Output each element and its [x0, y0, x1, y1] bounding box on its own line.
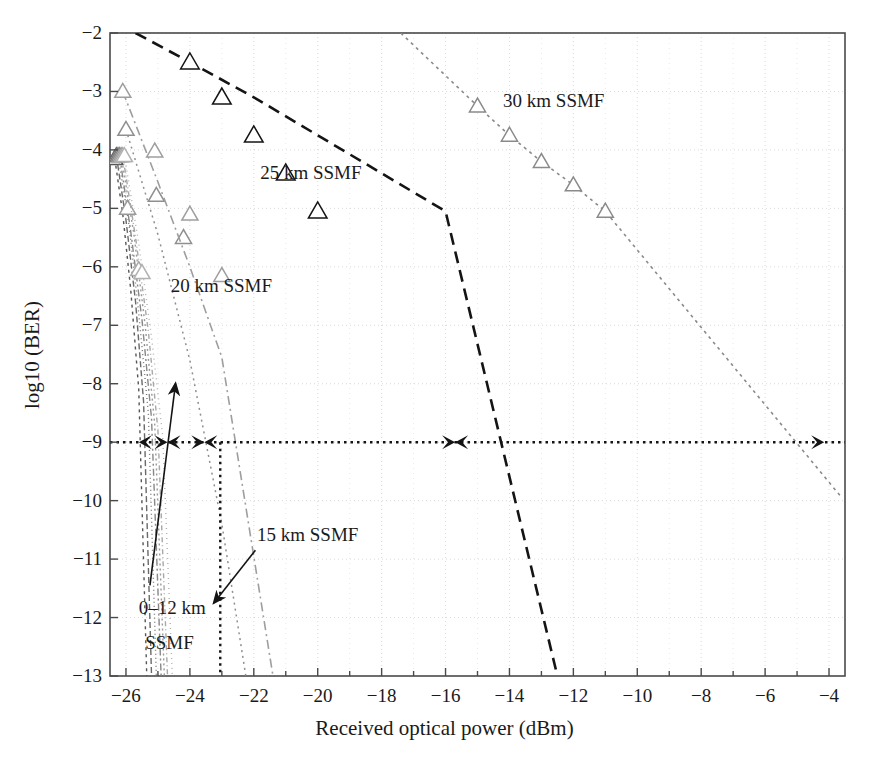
label-0-12km-line2: SSMF [145, 632, 194, 654]
ytick-label--2: −2 [44, 22, 102, 44]
series-line-30-km-ssmf [401, 33, 842, 498]
data-marker-triangle [308, 202, 327, 218]
data-marker-triangle [213, 88, 232, 104]
y-axis-title: log10 (BER) [20, 301, 45, 409]
data-marker-triangle [118, 121, 134, 135]
series-line-25-km-ssmf [136, 33, 558, 676]
ytick-label--6: −6 [44, 256, 102, 278]
ber-vs-received-optical-power-chart: −26−24−22−20−18−16−14−12−10−8−6−4−2−3−4−… [0, 0, 889, 773]
data-marker-triangle [245, 126, 264, 142]
xtick-label--18: −18 [367, 685, 397, 707]
xtick-label--4: −4 [819, 685, 839, 707]
data-marker-triangle [182, 206, 198, 220]
label-20km: 20 km SSMF [171, 275, 272, 297]
ytick-label--7: −7 [44, 314, 102, 336]
ytick-label--4: −4 [44, 139, 102, 161]
data-marker-triangle [469, 98, 485, 112]
ytick-label--3: −3 [44, 80, 102, 102]
ytick-label--5: −5 [44, 197, 102, 219]
ytick-label--12: −12 [44, 607, 102, 629]
ytick-label--8: −8 [44, 373, 102, 395]
data-marker-triangle [181, 53, 200, 69]
x-axis-title: Received optical power (dBm) [0, 716, 889, 741]
xtick-label--10: −10 [622, 685, 652, 707]
data-marker-triangle [565, 177, 581, 191]
label-0-12km-line1: 0–12 km [139, 597, 206, 619]
xtick-label--14: −14 [495, 685, 525, 707]
xtick-label--24: −24 [175, 685, 205, 707]
data-marker-triangle [147, 143, 163, 157]
label-15km: 15 km SSMF [257, 524, 358, 546]
span-arrowhead [442, 435, 455, 449]
xtick-label--26: −26 [111, 685, 141, 707]
ytick-label--13: −13 [44, 665, 102, 687]
data-marker-triangle [533, 154, 549, 168]
ytick-label--11: −11 [44, 548, 102, 570]
plot-canvas [0, 0, 889, 773]
data-marker-triangle [597, 203, 613, 217]
xtick-label--16: −16 [431, 685, 461, 707]
arrow-15km [214, 550, 256, 603]
xtick-label--22: −22 [239, 685, 269, 707]
ytick-label--10: −10 [44, 490, 102, 512]
data-marker-triangle [148, 187, 164, 201]
xtick-label--12: −12 [559, 685, 589, 707]
ytick-label--9: −9 [44, 431, 102, 453]
data-marker-triangle [115, 83, 131, 97]
xtick-label--6: −6 [755, 685, 775, 707]
xtick-label--20: −20 [303, 685, 333, 707]
xtick-label--8: −8 [691, 685, 711, 707]
label-25km: 25 km SSMF [260, 162, 361, 184]
span-arrowhead [191, 435, 204, 449]
label-30km: 30 km SSMF [503, 90, 604, 112]
